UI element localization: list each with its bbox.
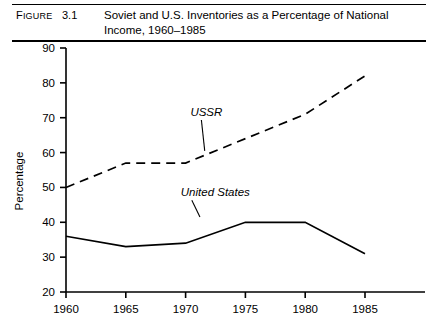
- y-tick-label: 70: [42, 112, 55, 124]
- series-line-ussr: [66, 76, 365, 188]
- series-line-united-states: [66, 222, 365, 253]
- x-tick-label: 1985: [352, 303, 378, 315]
- chart-ticks: [60, 48, 365, 298]
- series-leader-line: [192, 200, 200, 217]
- x-tick-label: 1975: [233, 303, 259, 315]
- y-tick-label: 50: [42, 181, 55, 193]
- figure-label-smallcaps: IGURE: [23, 11, 53, 21]
- header-rule-top: [12, 4, 426, 5]
- y-tick-label: 60: [42, 147, 55, 159]
- series-label-ussr: USSR: [190, 106, 222, 118]
- x-tick-label: 1980: [292, 303, 318, 315]
- x-tick-label: 1965: [113, 303, 139, 315]
- chart-annotations: USSRUnited States: [181, 106, 250, 217]
- y-tick-label: 90: [42, 42, 55, 54]
- figure-label: FIGURE: [16, 9, 52, 21]
- x-tick-label: 1970: [173, 303, 199, 315]
- figure-container: FIGURE 3.1 Soviet and U.S. Inventories a…: [0, 0, 438, 329]
- chart-axes: [66, 48, 425, 292]
- figure-title-line-2: Income, 1960–1985: [104, 23, 422, 38]
- chart-series: [66, 76, 365, 254]
- series-label-united-states: United States: [181, 186, 250, 198]
- y-tick-label: 40: [42, 216, 55, 228]
- figure-title: Soviet and U.S. Inventories as a Percent…: [104, 8, 422, 38]
- chart-tick-labels: 2030405060708090196019651970197519801985: [42, 42, 378, 315]
- figure-number: 3.1: [62, 9, 77, 21]
- y-tick-label: 20: [42, 286, 55, 298]
- y-tick-label: 80: [42, 77, 55, 89]
- line-chart: 2030405060708090196019651970197519801985…: [0, 42, 438, 329]
- figure-label-cap: F: [16, 9, 23, 21]
- figure-title-line-1: Soviet and U.S. Inventories as a Percent…: [104, 8, 422, 23]
- series-leader-line: [201, 120, 204, 151]
- x-tick-label: 1960: [53, 303, 79, 315]
- y-tick-label: 30: [42, 251, 55, 263]
